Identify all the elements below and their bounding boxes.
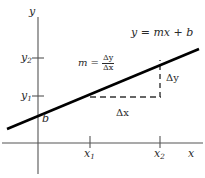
x-axis-label: x <box>188 148 194 159</box>
equals-sign: = <box>90 58 98 68</box>
slope-denominator: Δx <box>102 64 114 72</box>
slope-formula: m = Δy Δx <box>78 54 114 73</box>
y1-subscript: 1 <box>27 94 32 103</box>
slope-symbol: m <box>78 58 87 68</box>
line-equation-label: y = mx + b <box>131 27 193 38</box>
x1-subscript: 1 <box>90 152 95 161</box>
delta-x-label: Δx <box>116 108 129 118</box>
slope-numerator: Δy <box>102 54 114 62</box>
x-tick-label-x1: x1 <box>84 148 95 160</box>
delta-y-label: Δy <box>166 73 179 83</box>
y-tick-label-y1: y1 <box>21 90 32 102</box>
y-tick-label-y2: y2 <box>21 52 32 64</box>
x-tick-label-x2: x2 <box>154 148 165 160</box>
y-axis-label: y <box>29 6 35 17</box>
line-graph-figure: y x y2 y1 x1 x2 b y = mx + b Δx Δy m = Δ… <box>0 0 205 178</box>
x2-subscript: 2 <box>160 152 165 161</box>
y2-subscript: 2 <box>27 56 32 65</box>
slope-fraction: Δy Δx <box>102 54 114 73</box>
y-intercept-label: b <box>42 113 49 124</box>
